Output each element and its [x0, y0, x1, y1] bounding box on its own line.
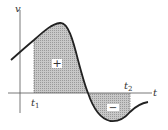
t1-label: t1	[31, 97, 40, 110]
v-axis-label: v	[15, 3, 21, 14]
minus-sign: −	[109, 102, 117, 113]
t2-label: t2	[124, 80, 133, 93]
t-axis-label: t	[153, 87, 158, 98]
plus-sign: +	[52, 57, 61, 70]
velocity-time-diagram: + − v t t1 t2	[0, 0, 168, 130]
